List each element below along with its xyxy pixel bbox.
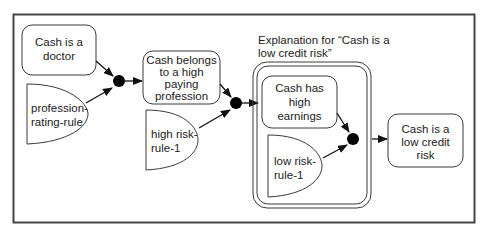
node-label: profession [155,90,208,102]
node-label: Cash belongs [146,54,217,66]
junction-dot-3 [347,133,359,145]
edge-lowrisk-to-junction3 [323,145,347,158]
node-label: risk [417,149,435,161]
rule-label: rating-rule [31,116,83,128]
node-label: Cash has [275,82,324,94]
node-cash-has-high-earnings: Cash has high earnings [262,76,337,128]
junction-dot-2 [230,97,242,109]
rule-label: rule-1 [151,142,180,154]
rule-label: low risk- [274,155,316,167]
edge-rule-to-junction1 [86,88,112,103]
edge-doctor-to-junction1 [96,61,113,76]
rule-label: rule-1 [274,169,303,181]
node-label: doctor [43,50,75,62]
inference-diagram: Cash is a doctor profession- rating-rule… [0,0,490,235]
explanation-caption-line2: low credit risk” [258,47,332,59]
node-label: Cash is a [402,123,451,135]
node-label: to a high [159,66,203,78]
explanation-caption-line1: Explanation for “Cash is a [258,34,390,46]
edge-earnings-to-junction3 [337,113,349,132]
junction-dot-1 [113,75,125,87]
node-label: paying [165,78,199,90]
node-high-paying-profession: Cash belongs to a high paying profession [143,51,220,104]
rule-label: high risk- [151,128,198,140]
node-label: earnings [277,110,321,122]
node-cash-is-a-doctor: Cash is a doctor [22,25,96,75]
rule-profession-rating-rule: profession- rating-rule [27,84,88,144]
edge-highrisk-to-junction2 [199,110,230,128]
edge-highpaying-to-junction2 [220,84,231,97]
node-label: low credit [401,136,450,148]
node-label: high [289,96,311,108]
rule-high-risk-rule-1: high risk- rule-1 [146,110,198,170]
node-label: Cash is a [35,36,84,48]
node-cash-is-low-credit-risk: Cash is a low credit risk [388,114,463,167]
rule-label: profession- [31,102,88,114]
rule-low-risk-rule-1: low risk- rule-1 [268,135,322,197]
